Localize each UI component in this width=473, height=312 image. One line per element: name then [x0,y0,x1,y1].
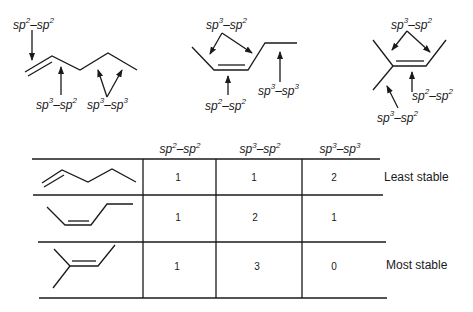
label-left-top: sp2–sp2 [13,18,54,31]
cell-r3-c3: 0 [314,261,354,272]
header-sp3-sp3: sp3–sp3 [300,141,380,156]
cell-r2-c3: 1 [314,212,354,223]
label-right-right: sp2–sp2 [412,89,453,102]
label-right-top: sp3–sp2 [391,18,432,31]
cell-r3-c2: 3 [237,261,277,272]
label-left-bottom-mid: sp3–sp2 [36,98,77,111]
stability-least: Least stable [384,170,449,184]
table-cis-2-pentene [47,204,133,225]
table-1-pentene [42,169,136,187]
cell-r2-c2: 2 [235,212,275,223]
cell-r1-c1: 1 [158,172,198,183]
label-mid-right: sp3–sp3 [258,84,299,97]
label-right-bottom: sp3–sp2 [377,111,418,124]
header-sp3-sp2: sp3–sp2 [220,141,300,156]
table-2-methyl-2-butene [53,245,115,288]
cell-r2-c1: 1 [158,212,198,223]
label-mid-bottom: sp2–sp2 [205,99,246,112]
cell-r3-c1: 1 [157,261,197,272]
label-left-bottom-right: sp3–sp3 [87,98,128,111]
header-sp2-sp2: sp2–sp2 [140,141,220,156]
1-pentene-structure [25,30,137,97]
cell-r1-c2: 1 [234,172,274,183]
cell-r1-c3: 2 [314,172,354,183]
stability-most: Most stable [386,258,447,272]
label-mid-top: sp3–sp2 [206,18,247,31]
